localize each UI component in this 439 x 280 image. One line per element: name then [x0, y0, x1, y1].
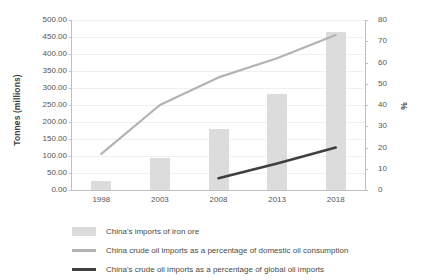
y-axis-left-tick-label: 200.00 [23, 117, 67, 126]
legend-swatch-bar-icon [72, 227, 96, 236]
y-axis-right-tick-label: 20 [378, 143, 408, 152]
y-axis-right-tick-label: 10 [378, 164, 408, 173]
y-axis-left-title: Tonnes (millions) [12, 55, 22, 165]
legend-swatch-line-light-icon [72, 249, 96, 252]
legend-item-global-imports: China's crude oil imports as a percentag… [72, 260, 432, 279]
y-axis-left-tick-label: 500.00 [23, 15, 67, 24]
y-axis-right-tick-label: 60 [378, 58, 408, 67]
y-axis-left-tick-label: 150.00 [23, 134, 67, 143]
legend-label-global-imports: China's crude oil imports as a percentag… [106, 265, 324, 274]
y-axis-left-tick-label: 250.00 [23, 100, 67, 109]
legend-item-domestic-consumption: China crude oil imports as a percentage … [72, 241, 432, 260]
line-crude-oil-global-imports [219, 148, 336, 179]
y-axis-right-tick-label: 70 [378, 36, 408, 45]
y-axis-left-tick-label: 350.00 [23, 66, 67, 75]
y-axis-left-tick-label: 300.00 [23, 83, 67, 92]
x-axis-line [71, 190, 366, 191]
y-axis-left-tick-label: 50.00 [23, 168, 67, 177]
y-axis-right-tick-label: 30 [378, 121, 408, 130]
y-axis-left-tick-label: 400.00 [23, 49, 67, 58]
y-axis-left-tick-label: 100.00 [23, 151, 67, 160]
y-axis-right-tick-label: 0 [378, 185, 408, 194]
legend-label-domestic-consumption: China crude oil imports as a percentage … [106, 246, 348, 255]
y-axis-right-tick-label: 50 [378, 79, 408, 88]
y-axis-left-line [71, 20, 72, 191]
y-axis-right-tick-label: 80 [378, 15, 408, 24]
legend-item-iron-ore: China's imports of iron ore [72, 222, 432, 241]
y-axis-right-line [365, 20, 366, 191]
plot-area [72, 20, 365, 190]
line-series-layer [72, 20, 365, 190]
y-axis-left-tick-label: 0.00 [23, 185, 67, 194]
y-axis-left-tick-label: 450.00 [23, 32, 67, 41]
x-axis-tick-label: 2018 [301, 195, 371, 204]
chart-container: Tonnes (millions) % 0.0050.00100.00150.0… [0, 0, 439, 280]
y-axis-right-tick-label: 40 [378, 100, 408, 109]
legend-swatch-line-dark-icon [72, 268, 96, 271]
chart-legend: China's imports of iron ore China crude … [72, 222, 432, 279]
legend-label-iron-ore: China's imports of iron ore [106, 227, 199, 236]
line-crude-oil-domestic-consumption [101, 35, 335, 154]
